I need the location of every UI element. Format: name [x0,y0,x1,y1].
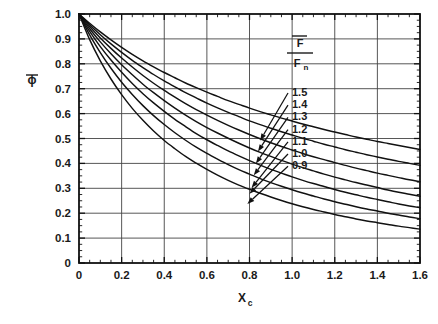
y-tick-label: 0.3 [55,182,71,194]
x-tick-label: 1.6 [412,269,428,281]
x-tick-label: 0.4 [156,269,173,281]
y-axis-title: ϕ [28,73,37,87]
legend-label-1-2: 1.2 [292,123,307,135]
legend-label-1-4: 1.4 [292,98,308,110]
legend-label-1-1: 1.1 [292,135,307,147]
legend-label-1-3: 1.3 [292,110,307,122]
x-tick-label: 0 [76,269,82,281]
y-tick-label: 0 [65,257,71,269]
x-tick-label: 1.2 [327,269,343,281]
y-tick-label: 0.5 [55,133,72,145]
x-tick-label: 0.2 [114,269,130,281]
legend-denominator-subscript-n: n [304,63,309,72]
phi-bar-vs-xc-chart: 00.20.40.60.81.01.21.41.6 00.10.20.30.40… [0,0,438,324]
y-tick-label: 0.7 [55,83,71,95]
legend-denominator-F: F [294,57,301,69]
y-tick-label: 0.8 [55,58,72,70]
y-tick-label: 0.4 [55,157,72,169]
x-tick-label: 0.6 [199,269,215,281]
y-tick-label: 1.0 [55,8,71,20]
x-tick-label: 0.8 [242,269,259,281]
y-tick-label: 0.1 [55,232,72,244]
chart-container: 00.20.40.60.81.01.21.41.6 00.10.20.30.40… [0,0,438,324]
x-tick-label: 1.4 [369,269,386,281]
legend-label-0-9: 0.9 [292,159,307,171]
y-tick-label: 0.6 [55,108,71,120]
x-axis-title-subscript: c [248,298,253,308]
legend-label-1-0: 1.0 [292,147,307,159]
x-axis-title: X [238,291,246,305]
y-tick-label: 0.9 [55,33,71,45]
y-tick-label: 0.2 [55,207,71,219]
x-axis-tick-labels: 00.20.40.60.81.01.21.41.6 [76,269,428,281]
legend-numerator-F: F [297,37,304,49]
legend-label-1-5: 1.5 [292,86,307,98]
x-tick-label: 1.0 [284,269,300,281]
